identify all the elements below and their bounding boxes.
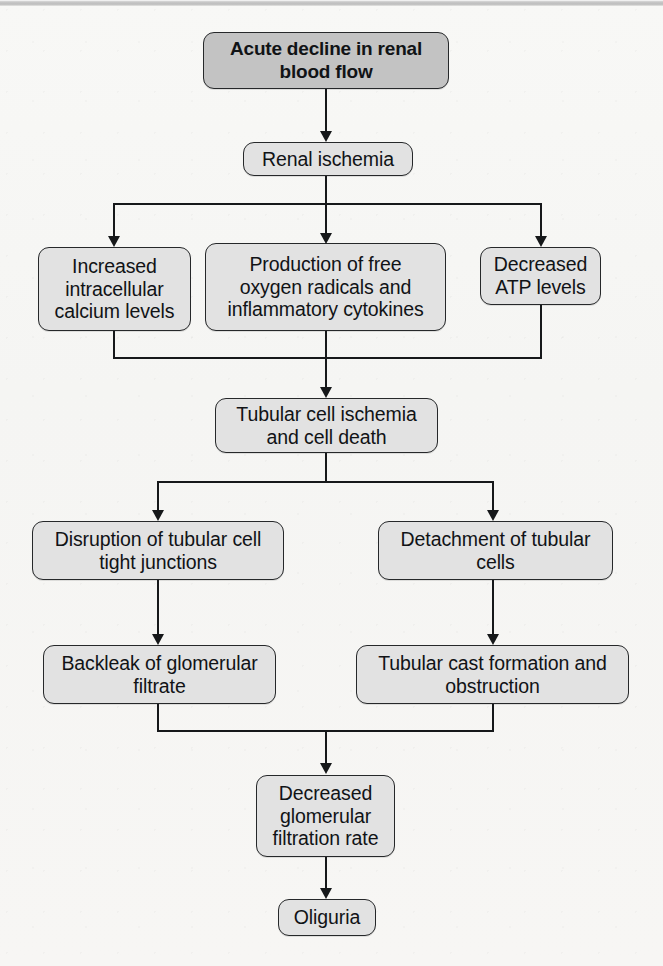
edge-n6-n8-drop <box>492 481 494 511</box>
edge-n7-n9-arrowhead <box>152 634 164 645</box>
edge-n8-n10-line <box>492 580 494 635</box>
node-production-free-oxygen-radicals: Production of free oxygen radicals and i… <box>205 243 446 331</box>
node-label: Decreased ATP levels <box>494 253 587 298</box>
node-label: Renal ischemia <box>262 148 394 171</box>
edge-n6-n7-drop <box>157 481 159 511</box>
node-label: Backleak of glomerular filtrate <box>61 652 257 697</box>
edge-n9-merge-stem <box>157 704 159 732</box>
node-backleak-glomerular-filtrate: Backleak of glomerular filtrate <box>43 645 276 704</box>
node-decreased-atp-levels: Decreased ATP levels <box>480 247 601 305</box>
flowchart-page: Acute decline in renal blood flow Renal … <box>0 0 663 966</box>
edge-n2-n4-arrowhead <box>320 233 332 244</box>
edge-n11-n12-line <box>325 857 327 890</box>
edge-n1-n2-line <box>325 89 327 132</box>
node-label: Detachment of tubular cells <box>401 528 591 573</box>
edge-merge-n11-arrowhead <box>320 763 332 774</box>
edge-n2-n5-arrowhead <box>535 236 547 247</box>
edge-merge-n6-arrowhead <box>320 387 332 398</box>
node-acute-decline-renal-blood-flow: Acute decline in renal blood flow <box>203 32 449 89</box>
node-detachment-tubular-cells: Detachment of tubular cells <box>378 521 613 580</box>
edge-n2-n3-arrowhead <box>108 236 120 247</box>
edge-n4-merge-stem <box>325 331 327 359</box>
edge-merge-to-n11 <box>325 730 327 766</box>
edge-n1-n2-arrowhead <box>320 131 332 142</box>
edge-n7-n9-line <box>157 580 159 635</box>
edge-n2-n4-drop <box>325 203 327 235</box>
node-disruption-tubular-tight-junctions: Disruption of tubular cell tight junctio… <box>32 521 284 580</box>
node-label: Increased intracellular calcium levels <box>55 255 175 323</box>
edge-n2-n5-drop <box>540 203 542 237</box>
node-label: Disruption of tubular cell tight junctio… <box>55 528 262 573</box>
node-tubular-cell-ischemia-death: Tubular cell ischemia and cell death <box>215 398 438 453</box>
edge-merge-bus-row2 <box>113 357 542 359</box>
node-tubular-cast-formation-obstruction: Tubular cast formation and obstruction <box>356 645 629 704</box>
edge-branch-bus-row2 <box>113 203 542 205</box>
node-renal-ischemia: Renal ischemia <box>243 142 413 176</box>
node-decreased-gfr: Decreased glomerular filtration rate <box>256 775 395 857</box>
edge-n6-n8-arrowhead <box>487 510 499 521</box>
node-label: Acute decline in renal blood flow <box>230 38 422 82</box>
edge-n3-merge-stem <box>113 331 115 359</box>
edge-n11-n12-arrowhead <box>320 888 332 899</box>
page-top-bar <box>0 0 663 6</box>
edge-merge-to-n6 <box>325 357 327 390</box>
edge-n2-n3-drop <box>113 203 115 237</box>
node-label: Tubular cell ischemia and cell death <box>236 403 416 448</box>
node-label: Production of free oxygen radicals and i… <box>227 253 423 321</box>
edge-n2-bus-stem <box>325 176 327 204</box>
node-oliguria: Oliguria <box>278 899 376 936</box>
edge-n8-n10-arrowhead <box>487 634 499 645</box>
node-label: Decreased glomerular filtration rate <box>273 782 379 850</box>
edge-n10-merge-stem <box>492 704 494 732</box>
node-label: Oliguria <box>294 906 360 929</box>
edge-n5-merge-stem <box>540 305 542 359</box>
edge-n6-bus-stem <box>325 453 327 483</box>
node-label: Tubular cast formation and obstruction <box>378 652 607 697</box>
node-increased-intracellular-calcium: Increased intracellular calcium levels <box>38 247 191 331</box>
edge-n6-n7-arrowhead <box>152 510 164 521</box>
edge-branch-bus-row3 <box>157 481 494 483</box>
